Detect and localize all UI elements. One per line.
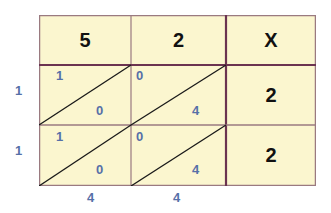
bottom-result-digit-1: 4 bbox=[87, 190, 94, 205]
bottom-result-digit-2: 4 bbox=[173, 190, 180, 205]
grid-lines bbox=[39, 15, 316, 186]
lattice-grid: 5 2 X 2 2 1 0 0 4 1 0 0 4 bbox=[39, 15, 316, 186]
left-result-digit-1: 1 bbox=[15, 83, 22, 98]
left-result-digit-2: 1 bbox=[15, 143, 22, 158]
